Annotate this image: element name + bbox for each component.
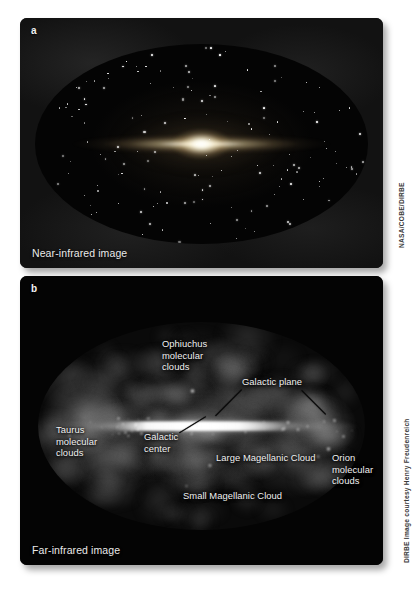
star-point bbox=[86, 81, 88, 83]
star-point bbox=[336, 163, 337, 164]
star-point bbox=[108, 78, 109, 79]
star-point bbox=[173, 87, 174, 88]
star-point bbox=[290, 183, 292, 185]
annotation-taurus-molecular-clouds: Taurus molecular clouds bbox=[56, 424, 97, 459]
star-point bbox=[248, 123, 250, 125]
star-point bbox=[59, 107, 61, 109]
plane-bright-knot bbox=[116, 426, 118, 428]
star-point bbox=[210, 47, 212, 49]
star-point bbox=[191, 90, 192, 91]
star-point bbox=[78, 109, 80, 111]
panel-b-caption: Far-infrared image bbox=[32, 544, 120, 556]
plane-bright-knot bbox=[122, 423, 124, 425]
panel-a-caption: Near-infrared image bbox=[32, 247, 127, 259]
star-point bbox=[194, 174, 196, 176]
star-point bbox=[209, 95, 210, 96]
plane-bright-knot bbox=[131, 430, 133, 432]
large-magellanic-cloud-source bbox=[208, 464, 212, 467]
star-point bbox=[346, 167, 347, 168]
plane-bright-knot bbox=[333, 419, 336, 422]
star-point bbox=[62, 155, 64, 157]
plane-bright-knot bbox=[306, 425, 309, 428]
plane-bright-knot bbox=[147, 417, 150, 420]
star-point bbox=[210, 223, 211, 224]
star-point bbox=[118, 174, 119, 175]
star-point bbox=[142, 234, 143, 235]
star-point bbox=[236, 219, 238, 221]
dust-cloud-region bbox=[185, 460, 218, 485]
star-point bbox=[85, 104, 87, 106]
star-point bbox=[71, 116, 72, 117]
star-point bbox=[231, 156, 232, 157]
star-point bbox=[306, 82, 307, 83]
star-point bbox=[319, 181, 320, 182]
annotation-galactic-plane: Galactic plane bbox=[242, 376, 302, 388]
star-point bbox=[257, 165, 258, 166]
star-point bbox=[319, 87, 320, 88]
star-point bbox=[296, 171, 297, 172]
star-point bbox=[260, 91, 261, 92]
star-point bbox=[150, 83, 151, 84]
star-point bbox=[140, 211, 142, 213]
star-point bbox=[188, 71, 190, 73]
star-point bbox=[219, 54, 221, 56]
dust-cloud-blob bbox=[233, 343, 273, 361]
annotation-small-magellanic-cloud: Small Magellanic Cloud bbox=[183, 490, 282, 502]
annotation-ophiuchus-molecular-clouds: Ophiuchus molecular clouds bbox=[162, 338, 207, 373]
star-point bbox=[84, 98, 86, 100]
star-point bbox=[117, 146, 119, 148]
star-point bbox=[192, 78, 193, 79]
star-point bbox=[314, 112, 315, 113]
star-point bbox=[157, 203, 158, 204]
plane-bright-knot bbox=[212, 433, 214, 435]
star-point bbox=[310, 157, 311, 158]
ophiuchus-bright-knot bbox=[190, 389, 195, 393]
star-point bbox=[274, 194, 275, 195]
star-point bbox=[166, 202, 167, 203]
star-point bbox=[143, 131, 145, 133]
plane-bright-knot bbox=[282, 427, 286, 430]
star-point bbox=[251, 210, 253, 212]
star-point bbox=[279, 186, 280, 187]
star-point bbox=[254, 231, 255, 232]
star-point bbox=[316, 121, 318, 123]
star-point bbox=[277, 121, 278, 122]
star-point bbox=[212, 176, 213, 177]
panel-a-letter: a bbox=[31, 25, 37, 36]
star-point bbox=[266, 205, 268, 207]
star-point bbox=[118, 203, 119, 204]
star-point bbox=[202, 199, 204, 201]
star-point bbox=[149, 223, 151, 225]
plane-bright-knot bbox=[190, 433, 192, 435]
star-point bbox=[362, 161, 364, 163]
star-point bbox=[259, 172, 261, 174]
plane-bright-knot bbox=[244, 431, 247, 433]
star-point bbox=[97, 190, 99, 192]
star-point bbox=[335, 151, 336, 152]
star-point bbox=[65, 107, 66, 108]
star-point bbox=[78, 87, 80, 89]
star-point bbox=[126, 61, 127, 62]
star-point bbox=[359, 133, 361, 135]
star-point bbox=[164, 122, 166, 124]
star-point bbox=[153, 206, 154, 207]
plane-bright-knot bbox=[342, 435, 345, 438]
star-point bbox=[76, 87, 77, 88]
panel-a-near-infrared: a Near-infrared image bbox=[20, 18, 383, 268]
star-point bbox=[94, 80, 96, 82]
star-point bbox=[70, 161, 71, 162]
star-point bbox=[185, 65, 187, 67]
star-point bbox=[303, 199, 304, 200]
star-point bbox=[205, 47, 207, 49]
star-point bbox=[184, 118, 185, 119]
star-point bbox=[136, 66, 137, 67]
star-point bbox=[122, 66, 124, 68]
star-point bbox=[67, 103, 68, 104]
star-point bbox=[187, 86, 189, 88]
star-point bbox=[160, 191, 162, 193]
galactic-bulge bbox=[171, 128, 231, 160]
star-point bbox=[328, 200, 330, 202]
star-point bbox=[263, 117, 265, 119]
star-point bbox=[319, 186, 320, 187]
star-point bbox=[91, 214, 92, 215]
